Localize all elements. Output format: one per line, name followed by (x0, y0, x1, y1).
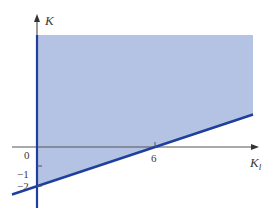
tick-label-0: 0 (24, 149, 30, 161)
y-axis-label: K (44, 13, 55, 28)
x-axis-label: Kl (249, 155, 262, 172)
tick-label-6: 6 (151, 152, 157, 164)
tick-label-m2: −2 (17, 180, 29, 192)
shaded-region (37, 35, 253, 186)
x-axis-label-sub: l (259, 162, 262, 172)
y-axis-arrow-icon (34, 14, 40, 22)
tick-label-m1: −1 (17, 168, 29, 180)
chart-canvas: K Kl 0 −1 −2 6 (0, 0, 274, 220)
x-axis-arrow-icon (251, 144, 259, 150)
